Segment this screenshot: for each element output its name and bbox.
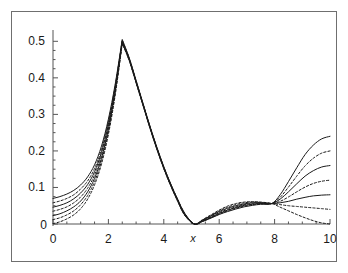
- x-tick-label: 6: [216, 233, 223, 245]
- y-tick-label: 0.3: [28, 108, 45, 120]
- line-chart-plot: [12, 12, 338, 263]
- y-tick-label: 0.1: [28, 181, 45, 193]
- y-tick-label: 0.4: [28, 72, 45, 84]
- curve-curve-4: [53, 42, 330, 225]
- y-tick-label: 0: [40, 219, 47, 231]
- chart-frame: 024681000.10.20.30.40.5x: [11, 11, 337, 262]
- curves-group: [53, 39, 330, 224]
- x-tick-label: 8: [271, 233, 278, 245]
- x-tick-label: 4: [160, 233, 167, 245]
- x-axis-label: x: [190, 233, 196, 244]
- y-tick-label: 0.5: [28, 35, 45, 47]
- y-tick-label: 0.2: [28, 145, 45, 157]
- x-tick-label: 10: [323, 233, 336, 245]
- x-tick-label: 0: [50, 233, 57, 245]
- x-tick-label: 2: [105, 233, 112, 245]
